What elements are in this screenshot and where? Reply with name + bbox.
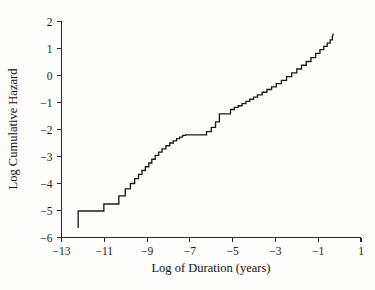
chart-svg: 210−1−2−3−4−5−6 −13−11−9−7−5−3−11 Log of… (0, 0, 375, 290)
x-tick-label: −7 (184, 245, 196, 257)
x-tick-label: −11 (96, 245, 114, 257)
y-tick-label: −2 (40, 124, 52, 136)
y-tick-label: −3 (40, 151, 52, 163)
y-tick-label: 0 (47, 70, 53, 82)
chart-figure: 210−1−2−3−4−5−6 −13−11−9−7−5−3−11 Log of… (0, 0, 375, 290)
x-tick-label: −13 (53, 245, 71, 257)
y-axis-tick-labels: 210−1−2−3−4−5−6 (40, 16, 53, 244)
x-tick-label: −5 (227, 245, 239, 257)
y-tick-label: −4 (40, 178, 52, 190)
y-axis-title: Log Cumulative Hazard (6, 68, 20, 190)
y-tick-label: 2 (47, 16, 53, 28)
x-tick-label: −9 (141, 245, 153, 257)
y-tick-label: −5 (40, 205, 52, 217)
log-cumulative-hazard-curve (78, 34, 333, 228)
y-axis-ticks (57, 22, 62, 238)
y-tick-label: 1 (47, 43, 53, 55)
x-axis-tick-labels: −13−11−9−7−5−3−11 (53, 245, 365, 257)
x-tick-label: 1 (358, 245, 364, 257)
x-tick-label: −3 (269, 245, 281, 257)
x-axis-ticks (62, 238, 362, 243)
x-axis-title: Log of Duration (years) (151, 261, 270, 275)
x-tick-label: −1 (312, 245, 324, 257)
y-tick-label: −1 (40, 97, 52, 109)
y-tick-label: −6 (40, 232, 52, 244)
